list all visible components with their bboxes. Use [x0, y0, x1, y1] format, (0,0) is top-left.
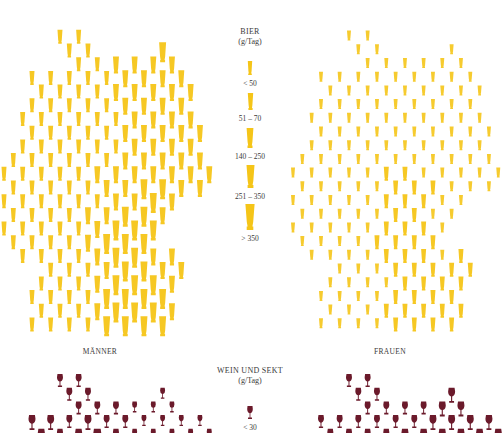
beer-legend-item-3: 140 – 250 [228, 128, 272, 161]
beer-legend-item-5: > 350 [228, 204, 272, 243]
beer-glass-icon [245, 204, 255, 230]
wine-legend-title: WEIN UND SEKT [205, 366, 295, 376]
beer-glass-icon [247, 93, 254, 110]
women-label: FRAUEN [350, 347, 430, 356]
wine-glass-icon [247, 406, 253, 419]
beer-glass-icon [247, 61, 253, 75]
wine-legend-item-1: < 30 [228, 404, 272, 432]
beer-legend-item-1: < 50 [228, 60, 272, 88]
beer-legend-unit: (g/Tag) [225, 37, 275, 47]
beer-legend-item-4: 251 – 350 [228, 165, 272, 201]
beer-glass-icon [246, 128, 254, 148]
men-label: MÄNNER [60, 347, 140, 356]
beer-glass-icon [246, 165, 255, 188]
wine-legend-unit: (g/Tag) [205, 376, 295, 386]
beer-legend-title: BIER [225, 27, 275, 37]
beer-legend-item-2: 51 – 70 [228, 93, 272, 123]
